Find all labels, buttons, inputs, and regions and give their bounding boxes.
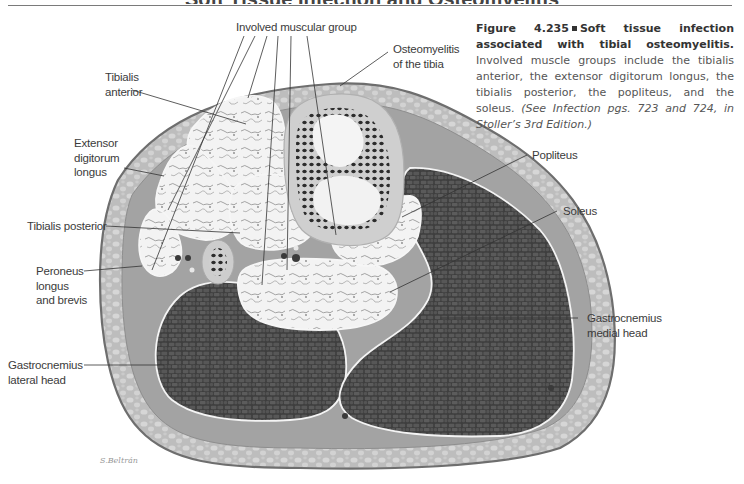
label-peroneus-longus-brevis: Peroneus longus and brevis [36,264,87,308]
figure-caption: Figure 4.235Soft tissue infection associ… [476,21,734,133]
label-extensor-digitorum-longus: Extensor digitorum longus [74,136,120,180]
fibula-bone [202,240,234,284]
label-tibialis-anterior: Tibialis anterior [105,70,142,99]
figure-number: Figure 4.235 [476,22,569,35]
label-gastrocnemius-lateral-head: Gastrocnemius lateral head [8,358,83,387]
bullet-square-icon [572,26,577,31]
label-soleus: Soleus [563,204,597,219]
label-osteomyelitis-tibia: Osteomyelitis of the tibia [393,42,459,71]
illustrator-signature: S.Beltrán [100,456,138,465]
soleus-muscle [238,259,397,330]
label-gastrocnemius-medial-head: Gastrocnemius medial head [587,311,662,340]
label-popliteus: Popliteus [532,148,578,163]
label-tibialis-posterior: Tibialis posterior [27,219,107,234]
tibia-bone [284,94,404,245]
label-involved-muscular-group: Involved muscular group [236,20,357,35]
caption-reference: (See Infection pgs. 723 and 724, in Stol… [476,102,734,131]
